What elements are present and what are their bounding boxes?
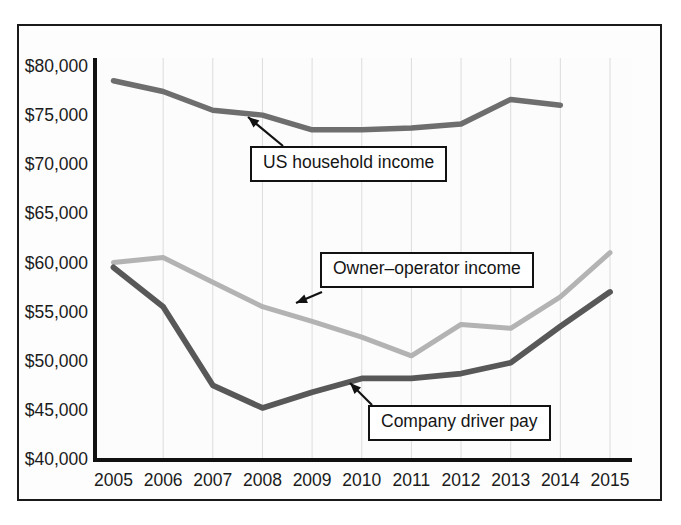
x-tick-label: 2007 — [193, 470, 232, 490]
x-tick-label: 2010 — [342, 470, 381, 490]
x-tick-label: 2014 — [541, 470, 580, 490]
annotation-us-household-income: US household income — [250, 146, 447, 182]
y-tick-label: $60,000 — [25, 253, 89, 273]
x-axis-tick-labels: 2005200620072008200920102011201220132014… — [94, 470, 629, 490]
x-tick-label: 2015 — [591, 470, 630, 490]
y-tick-label: $80,000 — [25, 56, 89, 76]
y-tick-label: $45,000 — [25, 400, 89, 420]
annotation-owner-operator-income: Owner–operator income — [320, 252, 534, 288]
y-tick-label: $40,000 — [25, 449, 89, 469]
x-tick-label: 2009 — [293, 470, 332, 490]
x-tick-label: 2005 — [94, 470, 133, 490]
x-tick-label: 2011 — [393, 470, 431, 490]
x-tick-label: 2006 — [144, 470, 183, 490]
y-tick-label: $65,000 — [25, 203, 89, 223]
y-tick-label: $70,000 — [25, 154, 89, 174]
y-axis-tick-labels: $80,000$75,000$70,000$65,000$60,000$55,0… — [25, 56, 89, 469]
y-tick-label: $50,000 — [25, 351, 89, 371]
y-tick-label: $55,000 — [25, 302, 89, 322]
y-tick-label: $75,000 — [25, 105, 89, 125]
chart-figure: $80,000$75,000$70,000$65,000$60,000$55,0… — [0, 0, 681, 525]
x-tick-label: 2012 — [442, 470, 481, 490]
x-tick-label: 2013 — [491, 470, 530, 490]
x-tick-label: 2008 — [243, 470, 282, 490]
annotation-company-driver-pay: Company driver pay — [368, 405, 551, 441]
